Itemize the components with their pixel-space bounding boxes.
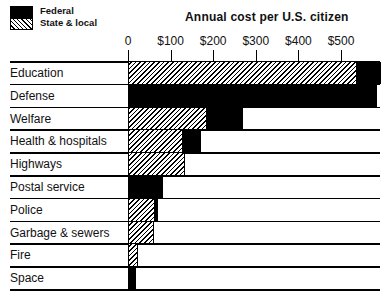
bar-state-local (128, 62, 357, 84)
bar-state-local (128, 244, 138, 266)
x-tick-mark (128, 50, 129, 61)
legend-label-state-local: State & local (40, 17, 97, 28)
bar-state-local (128, 153, 185, 175)
bar-state-local (128, 199, 155, 221)
x-tick-label: $500 (328, 34, 355, 48)
x-tick-mark (171, 50, 172, 61)
x-tick-label: $300 (242, 34, 269, 48)
x-tick-mark (298, 50, 299, 61)
row-label: Space (10, 271, 44, 285)
chart-title: Annual cost per U.S. citizen (185, 10, 349, 24)
x-tick-label: 0 (125, 34, 132, 48)
row-label: Education (10, 66, 63, 80)
bar-state-local (128, 108, 207, 130)
bar-federal (207, 108, 243, 130)
bar-federal (128, 85, 377, 107)
row-divider (10, 289, 380, 291)
row-label: Police (10, 203, 43, 217)
bar-federal (183, 130, 201, 152)
bar-federal (128, 176, 163, 198)
row-divider (10, 152, 380, 154)
row-label: Postal service (10, 180, 85, 194)
bar-federal (128, 267, 136, 289)
row-divider (10, 175, 380, 177)
x-tick-mark (213, 50, 214, 61)
bar-federal (155, 199, 158, 221)
x-tick-label: $200 (200, 34, 227, 48)
row-label: Health & hospitals (10, 134, 107, 148)
row-label: Highways (10, 157, 62, 171)
row-divider (10, 266, 380, 268)
legend-label-federal: Federal (40, 5, 74, 16)
x-tick-mark (256, 50, 257, 61)
row-divider (10, 243, 380, 245)
row-label: Defense (10, 89, 55, 103)
row-divider (10, 198, 380, 200)
row-label: Garbage & sewers (10, 226, 109, 240)
x-tick-mark (341, 50, 342, 61)
row-label: Fire (10, 248, 31, 262)
row-label: Welfare (10, 112, 51, 126)
x-tick-label: $400 (285, 34, 312, 48)
row-divider (10, 221, 380, 223)
bar-state-local (128, 130, 183, 152)
x-tick-label: $100 (157, 34, 184, 48)
bar-federal (357, 62, 381, 84)
hatched-swatch-icon (10, 18, 33, 30)
bar-state-local (128, 222, 154, 244)
federal-swatch-icon (10, 6, 33, 18)
zero-axis-line (128, 61, 129, 289)
